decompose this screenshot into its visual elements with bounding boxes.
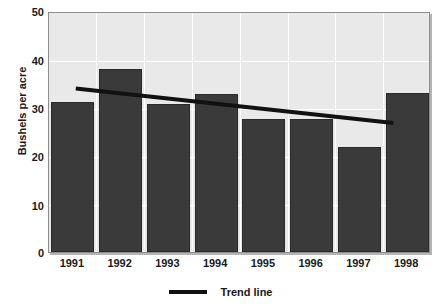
x-tick-label-1991: 1991 (48, 256, 96, 270)
y-tick-label-40: 40 (10, 55, 44, 67)
x-tick-label-1996: 1996 (287, 256, 335, 270)
chart-legend: Trend line (0, 282, 441, 302)
trend-line-path (76, 89, 394, 123)
x-tick-label-1998: 1998 (382, 256, 430, 270)
x-tick-label-1993: 1993 (144, 256, 192, 270)
plot-area (48, 12, 430, 253)
trend-line (49, 13, 429, 252)
x-axis-tick-labels: 1991 1992 1993 1994 1995 1996 1997 1998 (48, 256, 430, 274)
legend-item-label: Trend line (221, 286, 273, 298)
x-tick-label-1995: 1995 (239, 256, 287, 270)
trend-line-swatch (169, 290, 207, 294)
y-tick-label-30: 30 (10, 103, 44, 115)
y-tick-label-50: 50 (10, 6, 44, 18)
y-axis-tick-labels: 50 40 30 20 10 0 (6, 0, 44, 307)
y-tick-label-0: 0 (10, 247, 44, 259)
bar-chart: Bushels per acre 50 40 30 20 10 0 (0, 0, 441, 307)
x-tick-label-1994: 1994 (191, 256, 239, 270)
x-tick-label-1997: 1997 (335, 256, 383, 270)
y-tick-label-10: 10 (10, 200, 44, 212)
y-tick-label-20: 20 (10, 151, 44, 163)
x-tick-label-1992: 1992 (96, 256, 144, 270)
